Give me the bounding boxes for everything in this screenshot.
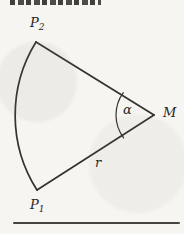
point-label-p1-letter: P (30, 197, 39, 212)
radius-line-p2 (36, 42, 154, 115)
point-label-p2-subscript: 2 (39, 22, 45, 32)
center-label-m: M (163, 106, 176, 119)
point-label-p2-letter: P (30, 15, 39, 30)
bottom-horizontal-rule (13, 222, 180, 224)
radius-label-r: r (95, 156, 101, 169)
sector-diagram (0, 0, 184, 234)
scanned-figure-page: P2 P1 M α r (0, 0, 184, 234)
point-label-p1-subscript: 1 (39, 204, 45, 214)
point-label-p2: P2 (30, 16, 44, 29)
sector-arc (15, 42, 37, 190)
angle-label-alpha: α (123, 103, 132, 116)
point-label-p1: P1 (30, 198, 44, 211)
radius-line-p1 (37, 115, 154, 190)
